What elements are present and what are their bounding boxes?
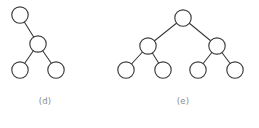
d-node-right-child [30,36,46,52]
e-node-leaf-3 [190,62,206,78]
caption-e: (e) [177,96,189,106]
e-node-root [175,10,191,26]
tree-d-group: (d) [12,7,64,106]
e-node-leaf-1 [118,62,134,78]
d-node-leaf-right [48,62,64,78]
e-node-leaf-2 [155,62,171,78]
tree-d-nodes [12,7,64,78]
d-node-leaf-left [12,62,28,78]
e-node-right-child [209,38,225,54]
tree-e-group: (e) [118,10,243,106]
caption-d: (d) [39,96,52,106]
figure-container: (d) (e) [0,0,259,128]
d-node-root [12,7,28,23]
tree-e-nodes [118,10,243,78]
e-node-leaf-4 [227,62,243,78]
e-node-left-child [140,38,156,54]
tree-diagram-canvas: (d) (e) [0,0,259,128]
